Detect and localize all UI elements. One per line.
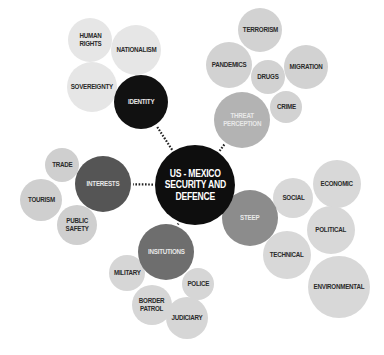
bubble-migration-label: MIGRATION — [290, 63, 323, 71]
bubble-military-label: MILITARY — [114, 269, 141, 277]
bubble-judiciary-label: JUDICIARY — [171, 314, 202, 322]
bubble-pandemics-label: PANDEMICS — [212, 61, 247, 69]
bubble-public-safety: PUBLIC SAFETY — [57, 205, 97, 245]
category-bubble-identity-label: IDENTITY — [128, 98, 154, 106]
bubble-nationalism: NATIONALISM — [111, 25, 161, 75]
bubble-political: POLITICAL — [307, 206, 355, 254]
bubble-social: SOCIAL — [273, 178, 313, 218]
bubble-sovereignty-label: SOVEREIGNTY — [71, 83, 113, 91]
bubble-trade: TRADE — [45, 148, 79, 182]
bubble-technical-label: TECHNICAL — [270, 251, 304, 259]
center-bubble: US - MEXICO SECURITY AND DEFENCE — [155, 145, 235, 225]
category-bubble-threat-perception-label: THREAT PERCEPTION — [223, 112, 261, 127]
bubble-tourism-label: TOURISM — [28, 196, 55, 204]
bubble-technical: TECHNICAL — [263, 231, 311, 279]
category-bubble-threat-perception: THREAT PERCEPTION — [214, 92, 270, 148]
category-bubble-interests: INTERESTS — [75, 156, 131, 212]
bubble-migration: MIGRATION — [284, 45, 328, 89]
bubble-drugs: DRUGS — [251, 60, 285, 94]
bubble-crime-label: CRIME — [277, 103, 296, 111]
connector-identity — [157, 126, 172, 149]
category-bubble-identity: IDENTITY — [114, 75, 168, 129]
bubble-tourism: TOURISM — [20, 179, 62, 221]
bubble-drugs-label: DRUGS — [257, 73, 278, 81]
bubble-environmental-label: ENVIRONMENTAL — [314, 283, 365, 291]
bubble-public-safety-label: PUBLIC SAFETY — [65, 217, 88, 232]
bubble-environmental: ENVIRONMENTAL — [308, 256, 370, 318]
bubble-police-label: POLICE — [187, 280, 209, 288]
category-bubble-interests-label: INTERESTS — [87, 180, 120, 188]
category-bubble-institutions: INSITUTIONS — [138, 224, 194, 280]
category-bubble-institutions-label: INSITUTIONS — [148, 248, 185, 256]
bubble-human-rights-label: HUMAN RIGHTS — [79, 32, 101, 47]
bubble-economic-label: ECONOMIC — [321, 180, 353, 188]
bubble-police: POLICE — [182, 268, 214, 300]
bubble-terrorism: TERRORISM — [238, 8, 282, 52]
bubble-trade-label: TRADE — [52, 161, 72, 169]
bubble-judiciary: JUDICIARY — [166, 297, 208, 339]
center-bubble-label: US - MEXICO SECURITY AND DEFENCE — [164, 168, 225, 201]
bubble-border-patrol-label: BORDER PATROL — [139, 297, 165, 312]
bubble-human-rights: HUMAN RIGHTS — [68, 18, 112, 62]
bubble-economic: ECONOMIC — [313, 160, 361, 208]
bubble-terrorism-label: TERRORISM — [242, 26, 277, 34]
bubble-pandemics: PANDEMICS — [206, 42, 252, 88]
connector-threat-perception — [220, 144, 225, 151]
category-bubble-steep-label: STEEP — [240, 214, 259, 222]
bubble-political-label: POLITICAL — [316, 226, 347, 234]
bubble-nationalism-label: NATIONALISM — [116, 46, 156, 54]
bubble-sovereignty: SOVEREIGNTY — [67, 62, 117, 112]
bubble-crime: CRIME — [270, 91, 302, 123]
bubble-social-label: SOCIAL — [282, 194, 304, 202]
